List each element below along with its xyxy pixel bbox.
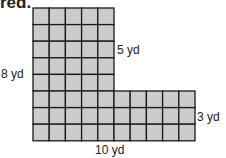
- grid-cell: [65, 25, 81, 42]
- grid-cell: [146, 108, 162, 125]
- grid-cell: [163, 91, 179, 108]
- grid-cell: [49, 91, 65, 108]
- grid-cell: [49, 25, 65, 42]
- grid-cell: [98, 25, 114, 42]
- grid-cell: [49, 41, 65, 58]
- grid-cell: [49, 58, 65, 75]
- grid-cell: [82, 91, 98, 108]
- grid-cell: [82, 58, 98, 75]
- grid-cell: [82, 41, 98, 58]
- grid-cell: [179, 124, 195, 141]
- label-bottom-width: 10 yd: [95, 143, 124, 157]
- grid-cell: [33, 58, 49, 75]
- grid-cell: [82, 124, 98, 141]
- grid-cell: [33, 108, 49, 125]
- grid-cell: [114, 108, 130, 125]
- grid-cell: [65, 124, 81, 141]
- grid-cell: [179, 108, 195, 125]
- grid-cell: [146, 124, 162, 141]
- grid-cell: [33, 8, 49, 25]
- grid-cell: [33, 91, 49, 108]
- grid-cell: [130, 91, 146, 108]
- grid-cell: [163, 108, 179, 125]
- grid-cell: [98, 124, 114, 141]
- grid-cell: [82, 74, 98, 91]
- label-upper-right: 5 yd: [117, 43, 140, 57]
- grid-cell: [114, 124, 130, 141]
- grid-cell: [114, 91, 130, 108]
- grid-cell: [82, 25, 98, 42]
- grid-cell: [98, 74, 114, 91]
- grid-cell: [82, 108, 98, 125]
- grid-cell: [65, 41, 81, 58]
- grid-cell: [33, 41, 49, 58]
- grid-cell: [65, 74, 81, 91]
- grid-cell: [179, 91, 195, 108]
- grid-cell: [49, 8, 65, 25]
- grid-cell: [98, 8, 114, 25]
- l-shape-grid-figure: [0, 0, 226, 158]
- label-left-height: 8 yd: [1, 67, 24, 81]
- label-lower-right: 3 yd: [197, 110, 220, 124]
- grid-cell: [33, 124, 49, 141]
- grid-cell: [49, 124, 65, 141]
- grid-cell: [130, 108, 146, 125]
- grid-cell: [65, 108, 81, 125]
- grid-cell: [49, 108, 65, 125]
- grid-cell: [65, 8, 81, 25]
- grid-cell: [33, 25, 49, 42]
- grid-cell: [33, 74, 49, 91]
- grid-cell: [65, 58, 81, 75]
- grid-cell: [98, 108, 114, 125]
- grid-cell: [98, 91, 114, 108]
- grid-cell: [98, 41, 114, 58]
- grid-cell: [82, 8, 98, 25]
- grid-cell: [49, 74, 65, 91]
- grid-cell: [163, 124, 179, 141]
- grid-cell: [146, 91, 162, 108]
- grid-cell: [98, 58, 114, 75]
- grid-cell: [65, 91, 81, 108]
- grid-cell: [130, 124, 146, 141]
